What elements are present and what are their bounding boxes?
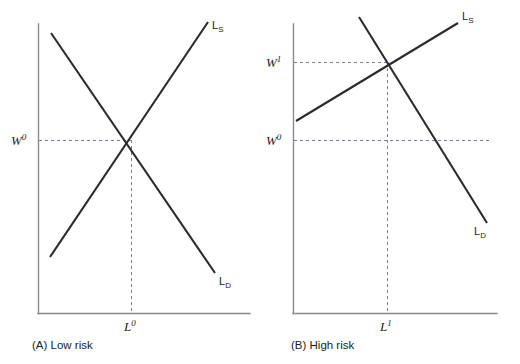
panel-a-wage-axis-label: W0 [11, 132, 27, 148]
panel-b-supply-curve-label: LS [462, 10, 473, 25]
panel-b: LS LD W1 W0 L1 (B) High risk [266, 10, 497, 351]
figure-container: LS LD W0 L0 (A) Low risk [0, 0, 520, 364]
panel-b-wage1-axis-label: W1 [266, 54, 281, 70]
panel-a-demand-curve-label: LD [219, 275, 231, 290]
panel-a-caption: (A) Low risk [32, 339, 93, 351]
panel-a-demand-curve [51, 33, 215, 273]
panel-b-caption: (B) High risk [291, 339, 355, 351]
panel-a-supply-curve-label: LS [212, 19, 223, 34]
panel-b-wage0-axis-label: W0 [266, 132, 282, 148]
panel-a: LS LD W0 L0 (A) Low risk [11, 19, 250, 351]
panel-a-labor-axis-label: L0 [123, 318, 136, 334]
panel-b-supply-curve [296, 23, 458, 121]
panel-b-demand-curve [359, 17, 487, 223]
panel-a-supply-curve [50, 22, 208, 257]
panel-b-demand-curve-label: LD [474, 225, 486, 240]
panel-b-labor-axis-label: L1 [379, 318, 392, 334]
